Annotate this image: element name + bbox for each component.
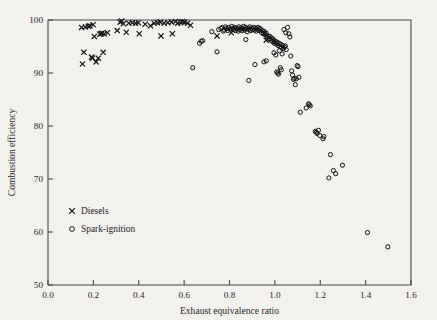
data-point-spark bbox=[386, 245, 390, 249]
data-point-diesel bbox=[148, 23, 153, 28]
x-tick-label: 0.8 bbox=[224, 290, 236, 300]
data-point-spark bbox=[210, 30, 214, 34]
legend: DieselsSpark-ignition bbox=[69, 206, 135, 234]
x-tick-label: 1.4 bbox=[360, 290, 372, 300]
data-point-spark bbox=[253, 62, 257, 66]
y-axis-title: Combustion efficiency bbox=[6, 109, 17, 197]
data-point-diesel bbox=[124, 30, 129, 35]
plot-canvas: 0.00.20.40.60.81.01.21.41.65060708090100… bbox=[0, 0, 437, 320]
data-point-spark bbox=[334, 172, 338, 176]
data-point-spark bbox=[285, 25, 289, 29]
x-tick-label: 0.6 bbox=[178, 290, 190, 300]
legend-entry-label: Spark-ignition bbox=[81, 224, 135, 234]
data-point-diesel bbox=[158, 33, 163, 38]
x-tick-label: 1.6 bbox=[405, 290, 417, 300]
data-point-spark bbox=[365, 230, 369, 234]
y-tick-label: 80 bbox=[34, 121, 44, 131]
data-point-diesel bbox=[81, 50, 86, 55]
data-point-diesel bbox=[115, 28, 120, 33]
data-point-diesel bbox=[143, 22, 148, 27]
y-tick-label: 90 bbox=[34, 68, 44, 78]
legend-entry-label: Diesels bbox=[81, 206, 109, 216]
data-point-spark bbox=[290, 69, 294, 73]
series-spark-ignition bbox=[191, 24, 390, 249]
legend-cross-icon bbox=[69, 208, 75, 214]
y-tick-label: 100 bbox=[29, 15, 43, 25]
data-point-diesel bbox=[170, 31, 175, 36]
y-tick-label: 60 bbox=[34, 227, 44, 237]
data-point-spark bbox=[296, 65, 300, 69]
x-tick-label: 1.0 bbox=[269, 290, 281, 300]
data-point-diesel bbox=[137, 31, 142, 36]
data-point-diesel bbox=[92, 34, 97, 39]
data-point-spark bbox=[298, 110, 302, 114]
data-point-spark bbox=[215, 50, 219, 54]
x-tick-label: 0.0 bbox=[42, 290, 54, 300]
y-tick-label: 50 bbox=[34, 280, 44, 290]
data-point-spark bbox=[280, 52, 284, 56]
data-point-spark bbox=[244, 38, 248, 42]
data-point-diesel bbox=[188, 23, 193, 28]
data-point-diesel bbox=[80, 61, 85, 66]
data-point-diesel bbox=[214, 33, 219, 38]
data-point-spark bbox=[289, 54, 293, 58]
data-point-spark bbox=[340, 163, 344, 167]
y-tick-label: 70 bbox=[34, 174, 44, 184]
plot-frame bbox=[48, 20, 411, 285]
legend-circle-icon bbox=[70, 227, 75, 232]
scatter-plot-figure: 0.00.20.40.60.81.01.21.41.65060708090100… bbox=[0, 0, 437, 320]
x-tick-label: 0.2 bbox=[88, 290, 100, 300]
data-point-spark bbox=[328, 153, 332, 157]
data-point-spark bbox=[191, 66, 195, 70]
x-tick-label: 1.2 bbox=[315, 290, 327, 300]
data-point-spark bbox=[247, 78, 251, 82]
x-tick-label: 0.4 bbox=[133, 290, 145, 300]
data-point-diesel bbox=[101, 50, 106, 55]
data-point-spark bbox=[327, 176, 331, 180]
data-point-spark bbox=[293, 83, 297, 87]
x-axis-title: Exhaust equivalence ratio bbox=[180, 305, 279, 316]
